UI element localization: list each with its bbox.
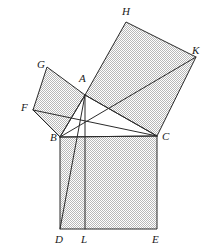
vertex-label-A: A xyxy=(79,73,86,84)
vertex-label-E: E xyxy=(152,234,159,245)
vertex-label-H: H xyxy=(122,6,130,17)
squares-group xyxy=(33,22,196,229)
vertex-label-B: B xyxy=(50,132,57,143)
vertex-label-D: D xyxy=(55,234,63,245)
vertex-label-K: K xyxy=(192,45,199,56)
vertex-label-L: L xyxy=(81,234,87,245)
geometry-figure: A B C D E L F G H K xyxy=(0,0,209,252)
vertex-label-C: C xyxy=(162,131,169,142)
vertex-label-G: G xyxy=(37,59,45,70)
vertex-label-F: F xyxy=(21,102,28,113)
figure-canvas xyxy=(0,0,209,252)
square-on-leg-ACKH xyxy=(85,22,196,136)
